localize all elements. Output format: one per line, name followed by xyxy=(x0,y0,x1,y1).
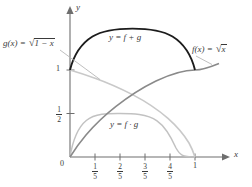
f-radicand: x xyxy=(221,44,227,54)
figure-canvas: y x 0 1 1 2 1 5 2 5 3 5 4 xyxy=(0,0,252,187)
x-tick-3-numerator: 3 xyxy=(142,163,148,171)
x-tick-1-denominator: 5 xyxy=(92,173,98,181)
annotation-product-curve: y = f · g xyxy=(110,120,138,129)
g-label-leader-line xyxy=(60,50,100,80)
y-axis-label: y xyxy=(76,3,80,12)
y-tick-half-denominator: 2 xyxy=(56,116,62,124)
annotation-sum-curve: y = f + g xyxy=(109,33,141,42)
y-tick-half-numerator: 1 xyxy=(56,106,62,114)
g-radicand: 1 − x xyxy=(34,38,55,48)
x-axis-label: x xyxy=(234,150,238,159)
x-tick-3-denominator: 5 xyxy=(142,173,148,181)
x-tick-1-numerator: 1 xyxy=(92,163,98,171)
x-tick-4-numerator: 4 xyxy=(167,163,173,171)
g-function-name: g(x) = xyxy=(3,38,28,48)
origin-label: 0 xyxy=(57,159,67,168)
radical-icon-f: √x xyxy=(215,44,227,54)
x-tick-2-numerator: 2 xyxy=(117,163,123,171)
x-axis-arrowhead xyxy=(222,153,230,160)
x-tick-label-two-fifths: 2 5 xyxy=(114,163,126,180)
graph-svg xyxy=(0,0,252,187)
y-tick-label-1: 1 xyxy=(53,64,63,73)
x-tick-label-four-fifths: 4 5 xyxy=(164,163,176,180)
x-tick-2-denominator: 5 xyxy=(117,173,123,181)
x-tick-label-one: 1 xyxy=(190,161,200,170)
f-function-name: f(x) = xyxy=(192,44,215,54)
f-label-leader-line xyxy=(196,56,212,65)
x-tick-label-one-fifth: 1 5 xyxy=(89,163,101,180)
y-axis-arrowhead xyxy=(66,6,73,14)
annotation-f-function: f(x) = √x xyxy=(192,44,227,54)
y-tick-label-one-half: 1 2 xyxy=(53,106,65,123)
x-tick-4-denominator: 5 xyxy=(167,173,173,181)
x-tick-label-three-fifths: 3 5 xyxy=(139,163,151,180)
radical-icon-g: √1 − x xyxy=(28,38,55,48)
annotation-g-function: g(x) = √1 − x xyxy=(3,38,55,48)
